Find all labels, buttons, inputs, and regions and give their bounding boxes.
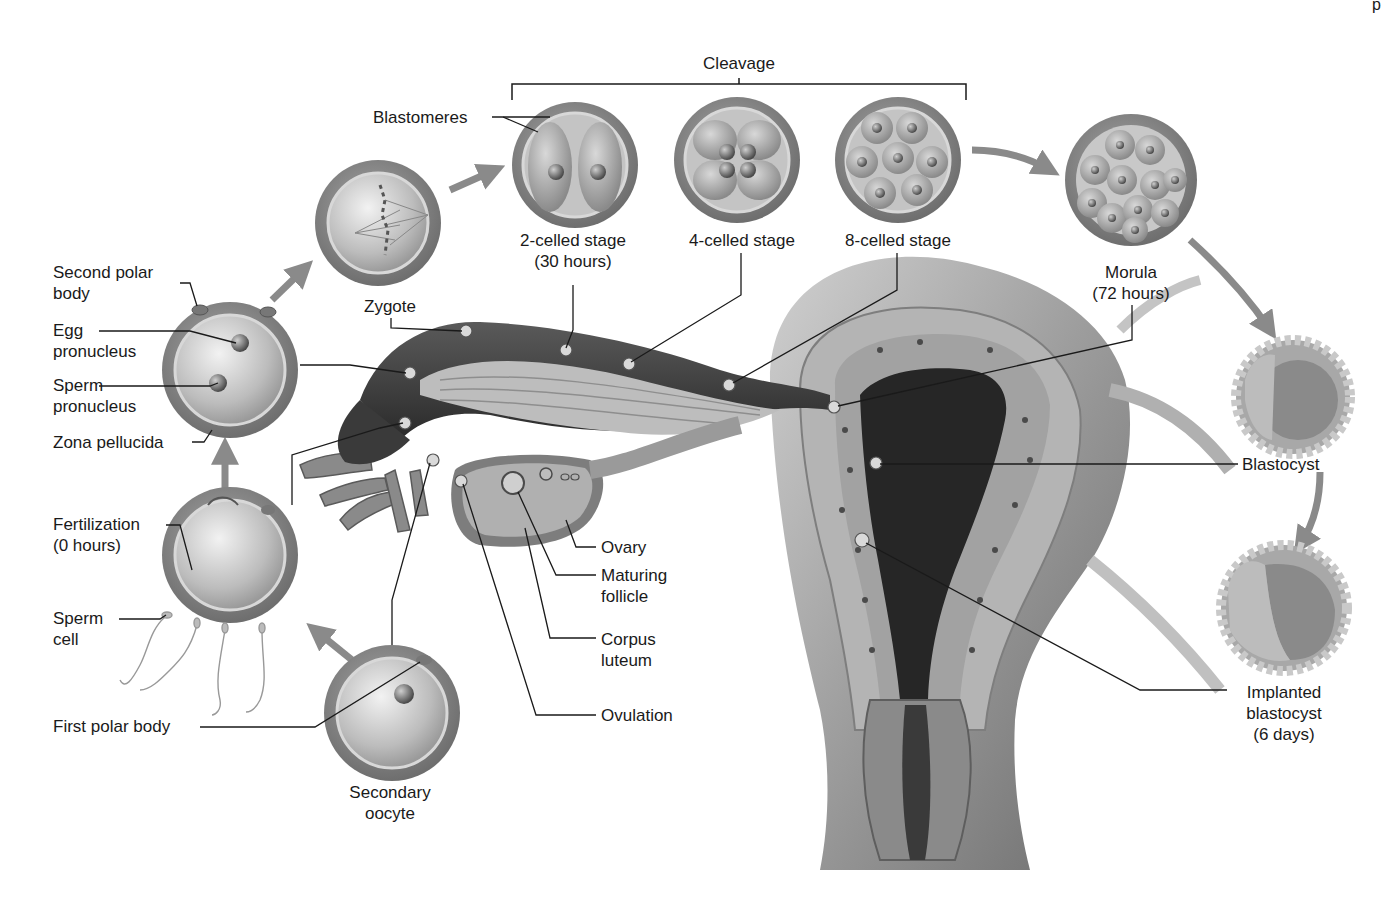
cell-secondary-oocyte: [324, 645, 460, 781]
arrow-zygote-to-2cell: [450, 170, 495, 190]
label-2-celled-stage: 2-celled stage (30 hours): [503, 230, 643, 272]
label-fertilization: Fertilization (0 hours): [53, 514, 140, 556]
label-morula: Morula (72 hours): [1071, 262, 1191, 304]
arrow-blastocyst-to-implanted: [1300, 472, 1320, 545]
arrow-8cell-to-morula: [972, 150, 1050, 170]
label-ovary: Ovary: [601, 537, 646, 558]
arrow-pronuclei-to-zygote: [272, 268, 305, 300]
cell-8-celled: [835, 97, 961, 223]
cell-blastocyst: [1236, 340, 1350, 454]
label-ovulation: Ovulation: [601, 705, 673, 726]
cell-4-celled: [674, 97, 800, 223]
sperm-cells: [120, 612, 265, 715]
label-8-celled-stage: 8-celled stage: [823, 230, 973, 251]
arrow-morula-to-blastocyst: [1190, 240, 1270, 330]
ovary: [451, 425, 740, 547]
label-egg-pronucleus: Egg pronucleus: [53, 320, 136, 362]
label-blastomeres: Blastomeres: [373, 107, 467, 128]
label-second-polar-body: Second polar body: [53, 262, 153, 304]
cell-zygote: [315, 160, 441, 286]
label-maturing-follicle: Maturing follicle: [601, 565, 667, 607]
cell-morula: [1065, 114, 1197, 246]
cell-2-celled: [512, 102, 638, 228]
label-zona-pellucida: Zona pellucida: [53, 432, 164, 453]
cell-fertilization: [162, 487, 298, 623]
arrow-oocyte-to-fertilization: [315, 630, 352, 660]
label-secondary-oocyte: Secondary oocyte: [330, 782, 450, 824]
cell-implanted-blastocyst: [1221, 545, 1347, 671]
label-blastocyst: Blastocyst: [1242, 454, 1319, 475]
label-cleavage: Cleavage: [679, 53, 799, 74]
label-sperm-pronucleus: Sperm pronucleus: [53, 375, 136, 417]
uterus: [770, 257, 1230, 870]
label-implanted-blastocyst: Implanted blastocyst (6 days): [1228, 682, 1340, 745]
label-first-polar-body: First polar body: [53, 716, 170, 737]
page-number-fragment: p: [1372, 0, 1381, 15]
diagram-canvas: Second polar body Egg pronucleus Sperm p…: [0, 0, 1387, 899]
label-zygote: Zygote: [340, 296, 440, 317]
label-corpus-luteum: Corpus luteum: [601, 629, 656, 671]
label-sperm-cell: Sperm cell: [53, 608, 103, 650]
cell-pronuclei: [162, 302, 298, 438]
illustration: [0, 0, 1387, 899]
cleavage-bracket: [512, 78, 966, 100]
label-4-celled-stage: 4-celled stage: [667, 230, 817, 251]
